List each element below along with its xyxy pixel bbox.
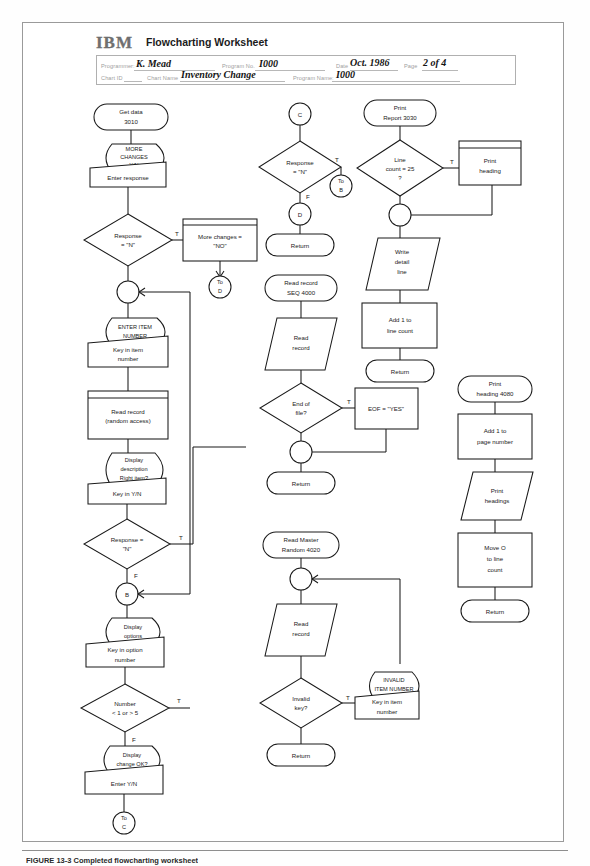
worksheet-sheet-border [22,22,564,842]
value-programmer[interactable]: K. Mead [136,58,171,69]
label-program-name: Program Name: [293,75,334,81]
ibm-logo: IBM [96,33,133,53]
label-chart-name: Chart Name [147,75,178,81]
value-program-no[interactable]: I000 [259,58,278,69]
value-date[interactable]: Oct. 1986 [350,57,389,68]
rule-chart-id [124,81,142,82]
rule-program-name [332,81,460,82]
caption-divider [22,850,568,851]
rule-page [422,70,458,71]
label-programmer: Programmer: [101,63,135,69]
page-title: Flowcharting Worksheet [146,36,268,48]
label-chart-id: Chart ID [101,75,123,81]
worksheet-page: IBM Flowcharting Worksheet Programmer: K… [0,0,590,866]
value-chart-name[interactable]: Inventory Change [181,69,256,80]
value-page[interactable]: 2 of 4 [423,57,446,68]
rule-program-no [255,70,325,71]
figure-caption: FIGURE 13-3 Completed flowcharting works… [26,856,198,866]
label-page: Page [404,63,417,69]
rule-date [350,70,398,71]
value-program-name[interactable]: I000 [336,69,355,80]
rule-chart-name [180,81,285,82]
